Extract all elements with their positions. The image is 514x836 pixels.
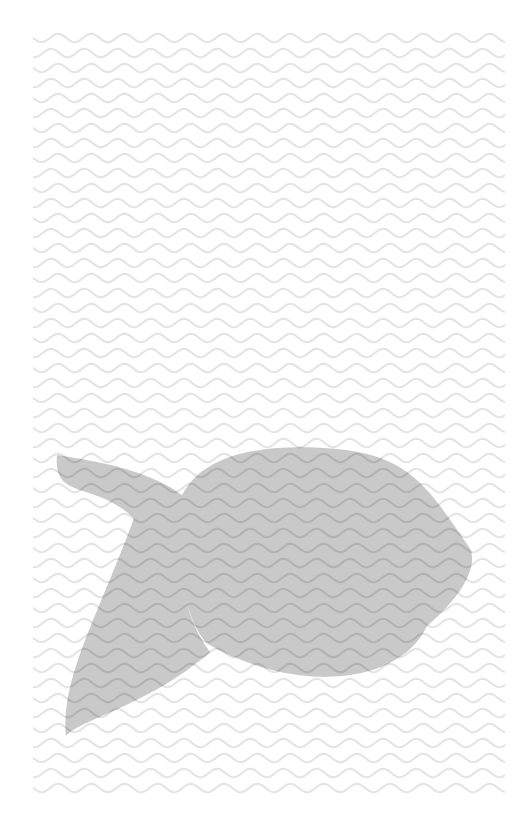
fish-wave-illustration: Fish bbox=[0, 0, 514, 836]
artwork-canvas: Fish bbox=[0, 0, 514, 836]
